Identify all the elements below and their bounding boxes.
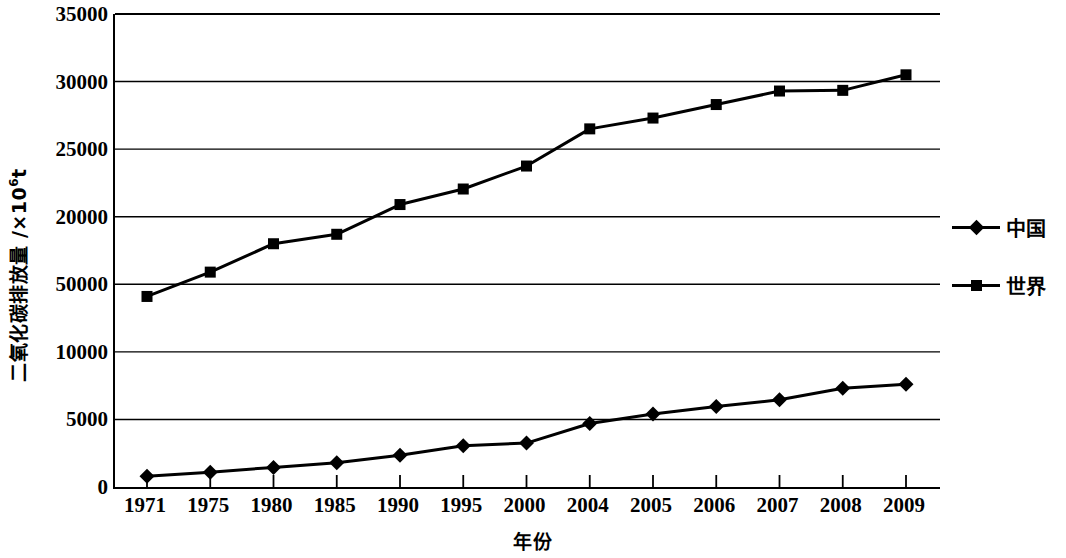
chart-legend: 中国世界	[952, 198, 1066, 314]
x-axis-title: 年份	[0, 527, 1066, 554]
y-axis-tick-label: 5000	[22, 409, 108, 430]
series-marker-square	[458, 184, 469, 195]
y-axis-tick-label: 35000	[22, 4, 108, 25]
series-marker-square	[711, 99, 722, 110]
series-marker-diamond	[329, 455, 344, 470]
series-marker-square	[648, 113, 659, 124]
y-axis-title-exponent: 6	[7, 178, 21, 187]
legend-label: 世界	[1006, 271, 1046, 300]
series-marker-diamond	[582, 416, 597, 431]
y-axis-tick-labels: 35000300002500020000500001000050000	[22, 0, 108, 558]
y-axis-tick-label: 25000	[22, 139, 108, 160]
series-marker-diamond	[772, 392, 787, 407]
x-axis-tick-labels: 1971197519801985199019952000200420052006…	[113, 493, 938, 525]
data-series	[142, 69, 912, 302]
legend-item[interactable]: 世界	[952, 256, 1066, 314]
plot-area	[113, 14, 940, 489]
y-axis-tick-label: 20000	[22, 206, 108, 227]
y-axis-tick-label: 50000	[22, 274, 108, 295]
y-axis-tick-label: 0	[22, 477, 108, 498]
series-marker-square	[521, 161, 532, 172]
series-marker-square	[774, 86, 785, 97]
chart-figure: 二氧化碳排放量 /×106t 3500030000250002000050000…	[0, 0, 1066, 558]
legend-item[interactable]: 中国	[952, 198, 1066, 256]
y-axis-tick-label: 30000	[22, 71, 108, 92]
legend-marker	[952, 276, 1000, 294]
series-marker-diamond	[203, 465, 218, 480]
series-marker-square	[268, 238, 279, 249]
series-marker-square	[901, 69, 912, 80]
series-marker-square	[837, 85, 848, 96]
legend-square-icon	[971, 280, 982, 291]
legend-label: 中国	[1006, 213, 1046, 242]
legend-marker	[952, 218, 1000, 236]
plot-canvas	[115, 14, 940, 487]
series-marker-diamond	[709, 399, 724, 414]
series-marker-diamond	[835, 381, 850, 396]
series-marker-square	[395, 199, 406, 210]
series-marker-diamond	[519, 436, 534, 451]
data-series-layer	[140, 69, 914, 483]
series-marker-square	[331, 229, 342, 240]
gridlines	[115, 14, 940, 419]
data-series	[140, 377, 914, 484]
series-marker-diamond	[456, 438, 471, 453]
x-axis-tick-label: 2009	[859, 493, 949, 518]
series-line	[147, 384, 906, 476]
series-marker-diamond	[140, 469, 155, 484]
series-marker-square	[584, 123, 595, 134]
series-marker-diamond	[266, 460, 281, 475]
series-marker-square	[205, 267, 216, 278]
x-axis-ticks	[147, 475, 906, 487]
series-marker-square	[142, 291, 153, 302]
y-axis-tick-label: 10000	[22, 341, 108, 362]
series-marker-diamond	[899, 377, 914, 392]
legend-diamond-icon	[968, 219, 984, 235]
series-line	[147, 75, 906, 297]
series-marker-diamond	[393, 448, 408, 463]
